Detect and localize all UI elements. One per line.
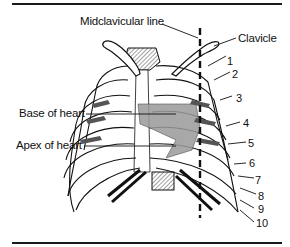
xiphoid: [152, 172, 174, 190]
rib-number-9: 9: [258, 204, 264, 215]
rib-number-1: 1: [227, 56, 233, 67]
rib-number-10: 10: [256, 218, 268, 229]
rib-number-7: 7: [255, 175, 261, 186]
rib-number-6: 6: [249, 158, 255, 169]
label-midclavicular-line: Midclavicular line: [80, 16, 164, 28]
label-clavicle: Clavicle: [238, 33, 277, 45]
rib-number-8: 8: [258, 191, 264, 202]
rib-number-2: 2: [232, 69, 238, 80]
rib-number-3: 3: [236, 93, 242, 104]
clavicles: [103, 41, 219, 76]
rib-number-4: 4: [243, 118, 249, 129]
label-apex-of-heart: Apex of heart: [16, 140, 82, 152]
rib-number-5: 5: [248, 138, 254, 149]
label-base-of-heart: Base of heart: [19, 108, 85, 120]
